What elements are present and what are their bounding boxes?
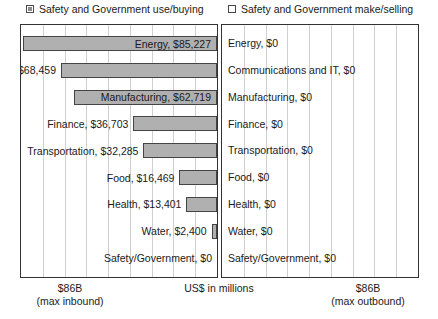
- axis-caption-right-note: (max outbound): [318, 295, 418, 308]
- table-row: Manufacturing, $62,719: [21, 90, 217, 105]
- legend-entry-outbound: Safety and Government make/selling: [228, 4, 413, 15]
- table-row: Finance, $36,703: [21, 116, 217, 131]
- inbound-bar: [212, 224, 217, 239]
- bar-value-label: Safety/Government, $0: [228, 253, 336, 264]
- filled-square-icon: [26, 5, 34, 13]
- axis-caption-left-value: $86B: [20, 282, 120, 295]
- table-row: Health, $0: [222, 197, 418, 212]
- bar-value-label: Safety/Government, $0: [104, 253, 212, 264]
- table-row: Health, $13,401: [21, 197, 217, 212]
- axis-caption-center: US$ in millions: [169, 282, 269, 295]
- bar-value-label: Health, $0: [228, 199, 276, 210]
- bar-value-label: Transportation, $32,285: [27, 145, 138, 156]
- table-row: Food, $0: [222, 170, 418, 185]
- axis-caption-left-note: (max inbound): [20, 295, 120, 308]
- inbound-bar: [143, 143, 217, 158]
- bar-value-label: Manufacturing, $62,719: [101, 92, 211, 103]
- table-row: Manufacturing, $0: [222, 90, 418, 105]
- table-row: Water, $0: [222, 224, 418, 239]
- inbound-bar: [186, 197, 217, 212]
- bar-value-label: Food, $0: [228, 172, 269, 183]
- bar-value-label: Finance, $36,703: [47, 119, 128, 130]
- axis-caption-right: $86B (max outbound): [318, 282, 418, 308]
- axis-caption-left: $86B (max inbound): [20, 282, 120, 308]
- inbound-bar: [179, 170, 217, 185]
- hollow-square-icon: [228, 5, 236, 13]
- bar-value-label: Energy, $0: [228, 38, 278, 49]
- inbound-bar: Energy, $85,227: [23, 36, 217, 51]
- inbound-bar: Manufacturing, $62,719: [74, 90, 217, 105]
- inbound-plot-panel: Energy, $85,227Communications and IT, $6…: [20, 24, 218, 278]
- table-row: Transportation, $32,285: [21, 143, 217, 158]
- outbound-bar-rows: Energy, $0Communications and IT, $0Manuf…: [222, 25, 418, 277]
- table-row: Energy, $0: [222, 36, 418, 51]
- bar-value-label: Finance, $0: [228, 119, 283, 130]
- bar-value-label: Food, $16,469: [107, 172, 175, 183]
- table-row: Safety/Government, $0: [222, 250, 418, 265]
- bar-value-label: Energy, $85,227: [135, 38, 211, 49]
- axis-caption-right-value: $86B: [318, 282, 418, 295]
- table-row: Finance, $0: [222, 116, 418, 131]
- bar-value-label: Manufacturing, $0: [228, 92, 312, 103]
- inbound-bar: [61, 63, 217, 78]
- bar-value-label: Communications and IT, $0: [228, 65, 355, 76]
- axis-units-label: US$ in millions: [169, 282, 269, 295]
- legend-label-inbound: Safety and Government use/buying: [39, 4, 204, 15]
- table-row: Water, $2,400: [21, 224, 217, 239]
- table-row: Food, $16,469: [21, 170, 217, 185]
- inbound-bar: [133, 116, 217, 131]
- bar-value-label: Water, $0: [228, 226, 273, 237]
- table-row: Energy, $85,227: [21, 36, 217, 51]
- chart-legend: Safety and Government use/buying Safety …: [0, 0, 438, 24]
- legend-entry-inbound: Safety and Government use/buying: [26, 4, 204, 15]
- inbound-bar-rows: Energy, $85,227Communications and IT, $6…: [21, 25, 217, 277]
- bar-value-label: Communications and IT, $68,459: [20, 65, 56, 76]
- outbound-plot-panel: Energy, $0Communications and IT, $0Manuf…: [221, 24, 419, 278]
- table-row: Communications and IT, $68,459: [21, 63, 217, 78]
- bar-value-label: Water, $2,400: [142, 226, 207, 237]
- legend-label-outbound: Safety and Government make/selling: [241, 4, 413, 15]
- bar-value-label: Transportation, $0: [228, 145, 313, 156]
- table-row: Transportation, $0: [222, 143, 418, 158]
- bar-value-label: Health, $13,401: [107, 199, 181, 210]
- table-row: Communications and IT, $0: [222, 63, 418, 78]
- table-row: Safety/Government, $0: [21, 250, 217, 265]
